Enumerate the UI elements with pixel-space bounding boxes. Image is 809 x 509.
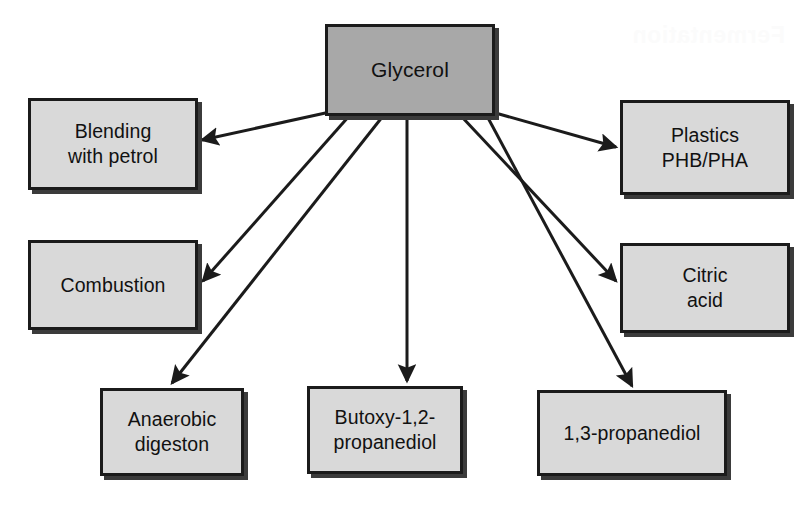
edge-glycerol-to-citric — [461, 116, 616, 281]
edge-glycerol-to-plastics — [492, 112, 616, 147]
edge-glycerol-to-13propanediol — [487, 116, 632, 386]
node-label-1-3-propanediol: 1,3-propanediol — [557, 421, 706, 446]
edges-group — [172, 112, 632, 386]
node-label-blending-with-petrol: Blending with petrol — [62, 119, 164, 168]
node-label-butoxy-1-2-propanediol: Butoxy-1,2- propanediol — [327, 405, 442, 454]
scan-bleedthrough-artifact: Fermentation — [632, 22, 785, 49]
edge-glycerol-to-anaerobic — [172, 116, 383, 383]
node-label-plastics-phb-pha: Plastics PHB/PHA — [656, 123, 754, 172]
node-label-combustion: Combustion — [54, 273, 171, 298]
node-plastics-phb-pha[interactable]: Plastics PHB/PHA — [620, 100, 790, 195]
glycerol-flow-diagram: Fermentation GlycerolBlending with petro… — [0, 0, 809, 509]
node-blending-with-petrol[interactable]: Blending with petrol — [28, 98, 198, 190]
node-1-3-propanediol[interactable]: 1,3-propanediol — [537, 390, 727, 476]
node-combustion[interactable]: Combustion — [28, 240, 198, 330]
node-label-citric-acid: Citric acid — [676, 263, 733, 312]
node-label-glycerol: Glycerol — [365, 57, 455, 83]
edge-glycerol-to-blending — [202, 112, 330, 140]
edge-glycerol-to-combustion — [203, 115, 350, 281]
node-citric-acid[interactable]: Citric acid — [620, 243, 790, 333]
node-glycerol[interactable]: Glycerol — [325, 24, 495, 116]
node-butoxy-1-2-propanediol[interactable]: Butoxy-1,2- propanediol — [307, 386, 463, 474]
node-anaerobic-digeston[interactable]: Anaerobic digeston — [100, 388, 244, 476]
node-label-anaerobic-digeston: Anaerobic digeston — [122, 407, 223, 456]
